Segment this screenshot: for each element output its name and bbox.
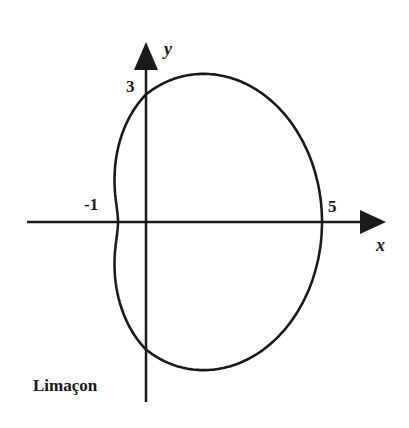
x-axis-label: x <box>376 236 385 254</box>
limacon-figure: y x 3 -1 5 Limaçon <box>0 0 409 428</box>
tick-label-x-neg1: -1 <box>84 196 98 213</box>
plot-canvas <box>0 0 409 428</box>
x-axis-arrow-icon <box>360 210 386 234</box>
figure-caption: Limaçon <box>33 377 97 394</box>
tick-label-x-5: 5 <box>328 198 337 215</box>
y-axis-arrow-icon <box>134 42 158 70</box>
y-axis-label: y <box>164 40 172 58</box>
tick-label-y-3: 3 <box>126 78 135 95</box>
